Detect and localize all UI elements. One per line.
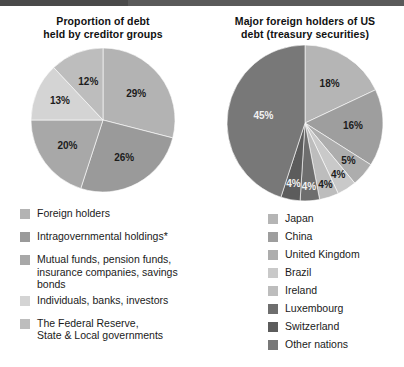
- legend-swatch: [20, 209, 30, 219]
- legend-swatch: [20, 255, 30, 265]
- pie-slice-label: 4%: [302, 181, 317, 192]
- legend-label: Other nations: [285, 338, 348, 351]
- legend-swatch: [20, 319, 30, 329]
- right-chart-title-line1: Major foreign holders of US: [206, 15, 404, 28]
- legend-label: Japan: [285, 212, 314, 225]
- legend-swatch: [20, 232, 30, 242]
- pie-slice-label: 16%: [343, 120, 363, 131]
- legend-swatch: [268, 214, 278, 224]
- legend-swatch: [20, 296, 30, 306]
- legend-item[interactable]: Intragovernmental holdings*: [20, 230, 206, 250]
- legend-label: United Kingdom: [285, 248, 360, 261]
- legend-item[interactable]: United Kingdom: [268, 248, 404, 265]
- legend-item[interactable]: Switzerland: [268, 320, 404, 337]
- legend-label: Switzerland: [285, 320, 339, 333]
- legend-label: Brazil: [285, 266, 311, 279]
- pie-slice-label: 12%: [78, 76, 98, 87]
- pie-slice-label: 13%: [50, 95, 70, 106]
- legend-swatch: [268, 322, 278, 332]
- legend-label: Foreign holders: [37, 207, 110, 220]
- left-chart-title-line2: held by creditor groups: [0, 28, 206, 41]
- legend-item[interactable]: Foreign holders: [20, 207, 206, 227]
- legend-swatch: [268, 340, 278, 350]
- left-chart-legend: Foreign holdersIntragovernmental holding…: [0, 207, 206, 342]
- legend-label: Individuals, banks, investors: [37, 294, 168, 307]
- left-chart-title: Proportion of debt held by creditor grou…: [0, 6, 206, 41]
- left-chart-panel: Proportion of debt held by creditor grou…: [0, 6, 206, 367]
- legend-swatch: [268, 304, 278, 314]
- right-chart-legend: JapanChinaUnited KingdomBrazilIrelandLux…: [206, 212, 404, 355]
- pie-slice-label: 4%: [286, 178, 301, 189]
- left-pie-chart: 29%26%20%13%12%: [30, 47, 176, 193]
- legend-item[interactable]: Ireland: [268, 284, 404, 301]
- legend-swatch: [268, 268, 278, 278]
- pie-slice-label: 18%: [320, 78, 340, 89]
- legend-swatch: [268, 250, 278, 260]
- pie-slice-label: 26%: [114, 152, 134, 163]
- pie-slice-label: 29%: [126, 88, 146, 99]
- legend-label: Intragovernmental holdings*: [37, 230, 168, 243]
- right-chart-panel: Major foreign holders of US debt (treasu…: [206, 6, 404, 367]
- legend-label: Luxembourg: [285, 302, 343, 315]
- pie-slice-label: 4%: [318, 179, 333, 190]
- left-chart-title-line1: Proportion of debt: [0, 15, 206, 28]
- right-chart-title-line2: debt (treasury securities): [206, 28, 404, 41]
- legend-item[interactable]: The Federal Reserve, State & Local gover…: [20, 317, 206, 342]
- legend-label: Mutual funds, pension funds, insurance c…: [37, 253, 206, 291]
- legend-label: The Federal Reserve, State & Local gover…: [37, 317, 163, 342]
- legend-swatch: [268, 286, 278, 296]
- legend-label: China: [285, 230, 312, 243]
- pie-slice-label: 20%: [57, 140, 77, 151]
- legend-item[interactable]: Other nations: [268, 338, 404, 355]
- pie-slice-label: 4%: [331, 169, 346, 180]
- legend-label: Ireland: [285, 284, 317, 297]
- right-pie-chart: 18%16%5%4%4%4%4%45%: [226, 44, 384, 202]
- right-pie-svg: 18%16%5%4%4%4%4%45%: [226, 44, 384, 202]
- legend-swatch: [268, 232, 278, 242]
- legend-item[interactable]: Brazil: [268, 266, 404, 283]
- pie-slice-label: 45%: [253, 110, 273, 121]
- legend-item[interactable]: Mutual funds, pension funds, insurance c…: [20, 253, 206, 291]
- left-pie-svg: 29%26%20%13%12%: [30, 47, 176, 193]
- legend-item[interactable]: Japan: [268, 212, 404, 229]
- right-chart-title: Major foreign holders of US debt (treasu…: [206, 6, 404, 41]
- legend-item[interactable]: China: [268, 230, 404, 247]
- pie-slice-label: 5%: [341, 155, 356, 166]
- legend-item[interactable]: Luxembourg: [268, 302, 404, 319]
- legend-item[interactable]: Individuals, banks, investors: [20, 294, 206, 314]
